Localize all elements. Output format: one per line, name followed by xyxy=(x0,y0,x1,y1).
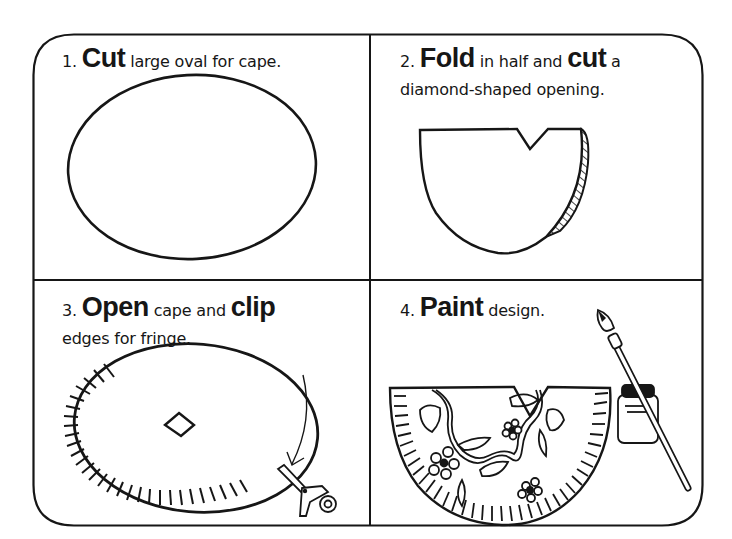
folded-cape-illustration xyxy=(370,33,704,280)
instruction-frame: 1. Cut large oval for cape. 2. Fold in h… xyxy=(32,33,704,527)
fringe-cuts xyxy=(64,364,247,505)
scissors-icon xyxy=(278,465,336,516)
step-1-panel: 1. Cut large oval for cape. xyxy=(32,33,370,280)
step-3-panel: 3. Open cape and clip edges for fringe. xyxy=(32,280,370,527)
fringed-cape-illustration xyxy=(32,280,370,527)
step-4-panel: 4. Paint design. xyxy=(370,280,704,527)
painted-cape xyxy=(390,387,610,525)
step-2-panel: 2. Fold in half and cut a diamond-shaped… xyxy=(370,33,704,280)
diamond-hole xyxy=(165,413,194,436)
oval-illustration xyxy=(32,33,370,280)
painted-cape-illustration xyxy=(370,280,704,527)
